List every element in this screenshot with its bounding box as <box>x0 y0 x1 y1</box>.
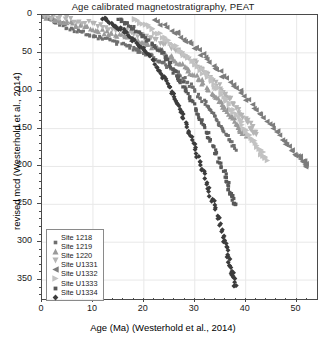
tick-mark <box>37 165 41 166</box>
diamond-marker-icon <box>50 288 61 297</box>
tick-mark <box>39 264 41 265</box>
tick-mark <box>112 298 113 300</box>
tick-mark <box>37 52 41 53</box>
legend-label: Site U1334 <box>61 288 98 297</box>
square-marker-icon <box>50 233 61 242</box>
tick-mark <box>39 22 41 23</box>
tick-mark <box>224 298 225 300</box>
tick-mark <box>39 29 41 30</box>
x-tick-label: 0 <box>26 303 56 313</box>
tick-mark <box>39 226 41 227</box>
tick-mark <box>39 196 41 197</box>
legend-label: Site 1220 <box>61 251 92 260</box>
tick-mark <box>37 203 41 204</box>
tick-mark <box>143 298 144 302</box>
legend-item-site-u1334[interactable]: Site U1334 <box>50 288 98 297</box>
triangle-left-marker-icon <box>50 260 61 269</box>
y-axis-label: revised mcd (Westerhold et al., 2014) <box>11 72 22 230</box>
tick-mark <box>39 150 41 151</box>
tick-mark <box>39 97 41 98</box>
tick-mark <box>39 294 41 295</box>
chart-title: Age calibrated magnetostratigraphy, PEAT <box>0 1 326 12</box>
x-tick-label: 50 <box>281 303 311 313</box>
legend-item-site-1220[interactable]: Site 1220 <box>50 251 98 260</box>
tick-mark <box>39 271 41 272</box>
tick-mark <box>39 181 41 182</box>
x-tick-label: 20 <box>128 303 158 313</box>
legend-item-site-1218[interactable]: Site 1218 <box>50 233 98 242</box>
x-tick-label: 40 <box>230 303 260 313</box>
legend-label: Site U1333 <box>61 279 98 288</box>
tick-mark <box>41 298 42 302</box>
legend-label: Site 1218 <box>61 233 92 242</box>
tick-mark <box>39 82 41 83</box>
legend-label: Site 1219 <box>61 242 92 251</box>
tick-mark <box>173 298 174 300</box>
tick-mark <box>245 298 246 302</box>
legend-item-site-u1333[interactable]: Site U1333 <box>50 278 98 287</box>
tick-mark <box>39 143 41 144</box>
tick-mark <box>275 298 276 300</box>
tick-mark <box>39 256 41 257</box>
tick-mark <box>39 105 41 106</box>
tick-mark <box>285 298 286 300</box>
tick-mark <box>153 298 154 300</box>
tick-mark <box>39 59 41 60</box>
tick-mark <box>39 218 41 219</box>
tick-mark <box>235 298 236 300</box>
tick-mark <box>39 234 41 235</box>
tick-mark <box>39 188 41 189</box>
tick-mark <box>163 298 164 300</box>
y-tick-label: 50 <box>2 46 32 56</box>
legend: Site 1218Site 1219Site 1220Site U1331Sit… <box>46 229 104 301</box>
tick-mark <box>39 44 41 45</box>
triangle-right-marker-icon <box>50 269 61 278</box>
legend-item-site-1219[interactable]: Site 1219 <box>50 242 98 251</box>
tick-mark <box>37 14 41 15</box>
tick-mark <box>184 298 185 300</box>
tick-mark <box>37 90 41 91</box>
tick-mark <box>133 298 134 300</box>
tick-mark <box>37 128 41 129</box>
tick-mark <box>255 298 256 300</box>
tick-mark <box>214 298 215 300</box>
tick-mark <box>39 211 41 212</box>
tick-mark <box>39 120 41 121</box>
tick-mark <box>39 135 41 136</box>
chart-figure: Age calibrated magnetostratigraphy, PEAT… <box>0 0 326 342</box>
tick-mark <box>39 67 41 68</box>
triangle-up-marker-icon <box>50 242 61 251</box>
tick-mark <box>37 241 41 242</box>
tick-mark <box>296 298 297 302</box>
tick-mark <box>39 173 41 174</box>
tick-mark <box>39 112 41 113</box>
y-tick-label: 0 <box>2 8 32 18</box>
tick-mark <box>265 298 266 300</box>
y-tick-label: 300 <box>2 235 32 245</box>
triangle-down-marker-icon <box>50 251 61 260</box>
legend-item-site-u1331[interactable]: Site U1331 <box>50 260 98 269</box>
square-marker-icon <box>50 279 61 288</box>
tick-mark <box>39 37 41 38</box>
tick-mark <box>306 298 307 300</box>
legend-label: Site U1332 <box>61 269 98 278</box>
tick-mark <box>39 287 41 288</box>
x-axis-label: Age (Ma) (Westerhold et al., 2014) <box>0 322 326 333</box>
tick-mark <box>194 298 195 302</box>
tick-mark <box>39 75 41 76</box>
y-tick-label: 350 <box>2 273 32 283</box>
legend-label: Site U1331 <box>61 260 98 269</box>
tick-mark <box>37 279 41 280</box>
tick-mark <box>39 158 41 159</box>
tick-mark <box>39 249 41 250</box>
legend-item-site-u1332[interactable]: Site U1332 <box>50 269 98 278</box>
tick-mark <box>122 298 123 300</box>
x-tick-label: 30 <box>179 303 209 313</box>
x-tick-label: 10 <box>77 303 107 313</box>
tick-mark <box>204 298 205 300</box>
